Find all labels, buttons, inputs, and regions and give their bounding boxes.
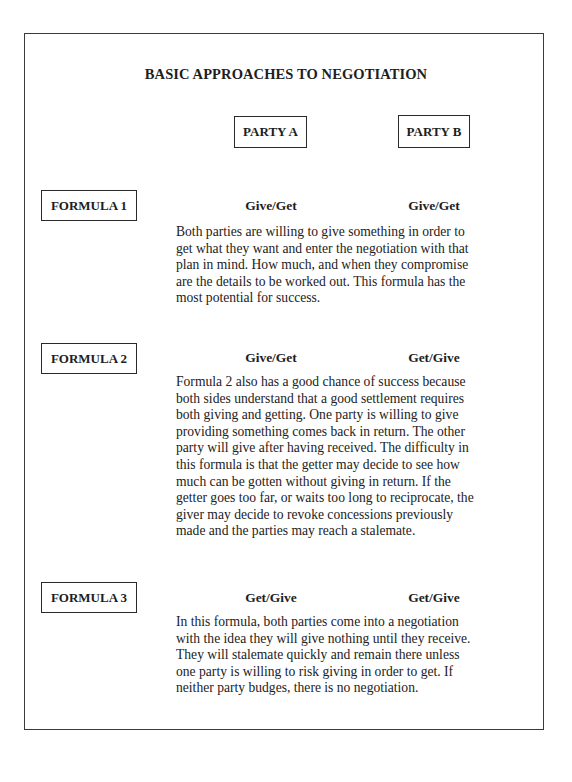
party-b-header: PARTY B: [398, 115, 470, 148]
formula-2-description: Formula 2 also has a good chance of succ…: [176, 374, 532, 540]
formula-1-party-a: Give/Get: [221, 198, 321, 214]
formula-3-party-a: Get/Give: [221, 590, 321, 606]
formula-1-label: FORMULA 1: [41, 190, 137, 221]
formula-1-party-b: Give/Get: [384, 198, 484, 214]
formula-1-description: Both parties are willing to give somethi…: [176, 224, 532, 307]
formula-3-label: FORMULA 3: [41, 582, 137, 613]
formula-3-party-b: Get/Give: [384, 590, 484, 606]
formula-2-party-b: Get/Give: [384, 350, 484, 366]
party-a-header: PARTY A: [234, 116, 307, 148]
page-title: BASIC APPROACHES TO NEGOTIATION: [0, 66, 572, 83]
formula-3-description: In this formula, both parties come into …: [176, 614, 532, 697]
formula-2-label: FORMULA 2: [41, 343, 137, 374]
formula-2-party-a: Give/Get: [221, 350, 321, 366]
